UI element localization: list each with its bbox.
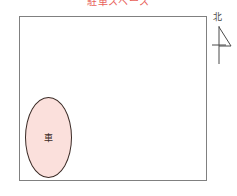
car-parking-ellipse: 車: [25, 97, 72, 178]
car-ellipse-label: 車: [44, 133, 53, 143]
diagram-title-band: 駐車スペース: [0, 0, 237, 8]
parking-space-diagram: 駐車スペース 車 北: [0, 0, 237, 196]
compass-north-label: 北: [213, 12, 222, 22]
compass-north-indicator: 北: [210, 12, 236, 66]
page-title: 駐車スペース: [87, 0, 150, 7]
north-arrow-icon: [210, 24, 236, 66]
